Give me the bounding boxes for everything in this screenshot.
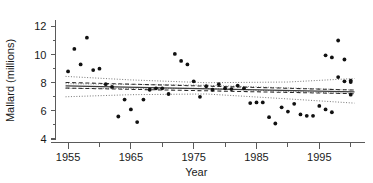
data-point (343, 58, 347, 62)
data-point (217, 82, 221, 86)
data-point (79, 63, 83, 67)
data-point (324, 53, 328, 57)
y-axis-ticks: 4681012 (34, 20, 55, 145)
x-tick-label: 1955 (56, 151, 80, 163)
y-tick-label: 12 (34, 20, 46, 32)
data-point (330, 56, 334, 60)
data-point (148, 88, 152, 92)
data-point (336, 39, 340, 43)
data-point (116, 115, 120, 119)
data-point (267, 115, 271, 119)
data-point (242, 86, 246, 90)
y-tick-label: 6 (40, 105, 46, 117)
data-point (211, 88, 215, 92)
data-point (135, 120, 139, 124)
data-point (160, 86, 164, 90)
data-point (104, 82, 108, 86)
x-axis-ticks: 19551965197519851995 (56, 143, 351, 163)
x-tick-label: 1995 (307, 151, 331, 163)
data-point (236, 84, 240, 88)
chart-container: 4681012 19551965197519851995 Year Mallar… (0, 0, 373, 183)
data-point (343, 79, 347, 83)
data-point (311, 114, 315, 118)
data-point (142, 98, 146, 102)
data-point (154, 86, 158, 90)
data-point (261, 101, 265, 105)
data-point (192, 79, 196, 83)
data-point (186, 63, 190, 67)
data-point (286, 110, 290, 114)
data-point (167, 92, 171, 96)
data-point (72, 47, 76, 51)
data-point (255, 101, 259, 105)
data-point (129, 108, 133, 112)
data-point (330, 110, 334, 114)
data-point (98, 67, 102, 71)
data-point (229, 87, 233, 91)
data-point (299, 112, 303, 116)
data-point (198, 95, 202, 99)
data-point (91, 68, 95, 72)
axes (51, 20, 366, 142)
data-point (324, 108, 328, 112)
data-point (66, 70, 70, 74)
outer-band-upper (66, 76, 355, 82)
data-point (179, 59, 183, 63)
data-point (273, 122, 277, 126)
x-axis-title: Year (185, 166, 208, 178)
y-tick-label: 4 (40, 133, 46, 145)
y-tick-label: 10 (34, 49, 46, 61)
data-point (349, 93, 353, 97)
x-tick-label: 1975 (181, 151, 205, 163)
data-point (123, 98, 127, 102)
y-axis-title: Mallard (millions) (4, 39, 16, 122)
data-point (336, 75, 340, 79)
data-point (204, 84, 208, 88)
data-point (280, 105, 284, 109)
data-point (317, 104, 321, 108)
data-points (66, 36, 352, 126)
x-tick-label: 1965 (119, 151, 143, 163)
outer-band-lower (66, 94, 355, 103)
data-point (292, 102, 296, 106)
confidence-bands (66, 76, 355, 103)
scatter-plot: 4681012 19551965197519851995 Year Mallar… (0, 0, 373, 183)
data-point (110, 85, 114, 89)
data-point (248, 101, 252, 105)
data-point (305, 114, 309, 118)
x-tick-label: 1985 (244, 151, 268, 163)
y-tick-label: 8 (40, 77, 46, 89)
data-point (173, 52, 177, 56)
data-point (85, 36, 89, 40)
data-point (349, 79, 353, 83)
data-point (223, 86, 227, 90)
